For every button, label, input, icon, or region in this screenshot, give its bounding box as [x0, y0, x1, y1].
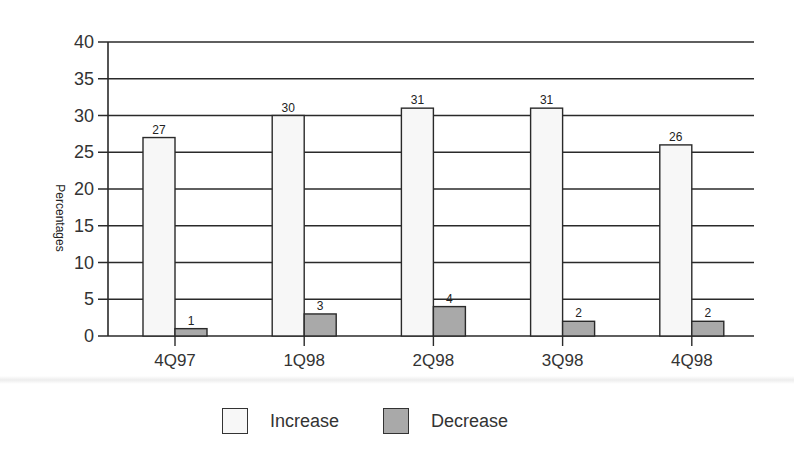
- y-tick-label: 5: [84, 289, 94, 309]
- y-axis-label: Percentages: [53, 184, 67, 251]
- bar-chart: 0510152025303540 271303314312262 4Q971Q9…: [0, 0, 794, 474]
- bar-value-label: 31: [540, 93, 554, 107]
- y-tick-label: 40: [74, 32, 94, 52]
- y-tick-label: 20: [74, 179, 94, 199]
- bar-decrease: [175, 329, 207, 336]
- y-tick-label: 35: [74, 69, 94, 89]
- bar-increase: [401, 108, 433, 336]
- legend-swatch-decrease: [383, 408, 409, 434]
- legend-item-increase: Increase: [222, 408, 339, 434]
- bar-increase: [272, 116, 304, 337]
- legend-label-increase: Increase: [270, 411, 339, 432]
- legend-label-decrease: Decrease: [431, 411, 508, 432]
- legend-swatch-increase: [222, 408, 248, 434]
- bar-value-label: 2: [575, 306, 582, 320]
- legend-item-decrease: Decrease: [383, 408, 508, 434]
- x-category-label: 3Q98: [542, 351, 584, 370]
- y-tick-label: 15: [74, 216, 94, 236]
- bar-value-label: 26: [669, 130, 683, 144]
- bar-increase: [531, 108, 563, 336]
- bar-value-label: 4: [446, 292, 453, 306]
- y-tick-label: 30: [74, 106, 94, 126]
- x-category-label: 2Q98: [413, 351, 455, 370]
- y-tick-label: 0: [84, 326, 94, 346]
- bar-decrease: [304, 314, 336, 336]
- bar-decrease: [433, 307, 465, 336]
- bar-value-label: 27: [152, 123, 166, 137]
- x-axis: 4Q971Q982Q983Q984Q98: [154, 336, 712, 370]
- bar-decrease: [563, 321, 595, 336]
- bar-increase: [660, 145, 692, 336]
- y-tick-label: 25: [74, 142, 94, 162]
- bar-value-label: 3: [317, 299, 324, 313]
- bar-value-label: 2: [704, 306, 711, 320]
- bar-decrease: [692, 321, 724, 336]
- scan-artifact: [0, 376, 794, 384]
- bar-value-label: 31: [411, 93, 425, 107]
- bar-increase: [143, 138, 175, 336]
- x-category-label: 1Q98: [283, 351, 325, 370]
- y-tick-label: 10: [74, 253, 94, 273]
- bar-value-label: 1: [188, 314, 195, 328]
- x-category-label: 4Q97: [154, 351, 196, 370]
- legend: Increase Decrease: [222, 408, 552, 434]
- x-category-label: 4Q98: [671, 351, 713, 370]
- bar-value-label: 30: [282, 101, 296, 115]
